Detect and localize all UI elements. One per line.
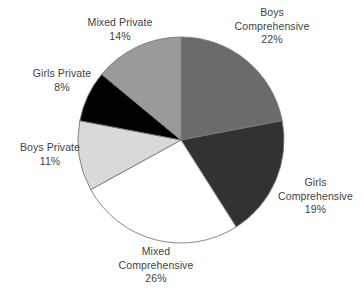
pie-label-line1: Mixed Private	[62, 16, 178, 30]
pie-label-line2: Comprehensive	[96, 259, 216, 273]
pie-chart: Boys Comprehensive 22% Girls Comprehensi…	[0, 0, 363, 298]
pie-label-value: 19%	[268, 203, 363, 217]
pie-label-value: 8%	[14, 81, 110, 95]
pie-label-line1: Mixed	[96, 245, 216, 259]
pie-label-mixed-comprehensive: Mixed Comprehensive 26%	[96, 245, 216, 286]
pie-label-line2: Comprehensive	[212, 20, 332, 34]
pie-label-value: 11%	[2, 155, 98, 169]
pie-label-line1: Girls	[268, 176, 363, 190]
pie-label-value: 14%	[62, 30, 178, 44]
pie-label-boys-comprehensive: Boys Comprehensive 22%	[212, 6, 332, 47]
pie-label-girls-private: Girls Private 8%	[14, 67, 110, 94]
pie-label-girls-comprehensive: Girls Comprehensive 19%	[268, 176, 363, 217]
pie-label-value: 26%	[96, 272, 216, 286]
pie-label-value: 22%	[212, 33, 332, 47]
pie-label-boys-private: Boys Private 11%	[2, 141, 98, 168]
pie-label-line1: Boys Private	[2, 141, 98, 155]
pie-label-line1: Girls Private	[14, 67, 110, 81]
pie-label-mixed-private: Mixed Private 14%	[62, 16, 178, 43]
pie-label-line2: Comprehensive	[268, 190, 363, 204]
pie-label-line1: Boys	[212, 6, 332, 20]
